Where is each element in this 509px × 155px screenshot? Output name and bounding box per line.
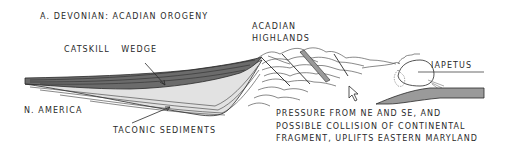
catskill-wedge-label: CATSKILL WEDGE xyxy=(64,45,157,55)
north-america-label: N. AMERICA xyxy=(24,106,82,116)
diagram-title: A. DEVONIAN: ACADIAN OROGENY xyxy=(40,12,208,22)
annotation-line-3: FRAGMENT, UPLIFTS EASTERN MARYLAND xyxy=(276,133,478,146)
acadian-highlands-label-line1: ACADIAN xyxy=(252,22,296,32)
oceanic-plate xyxy=(376,88,484,104)
annotation-line-1: PRESSURE FROM NE AND SE, AND xyxy=(276,108,478,121)
taconic-sediments-label: TACONIC SEDIMENTS xyxy=(113,126,216,136)
taconic-leader-arrow xyxy=(132,107,170,123)
mouse-cursor-icon xyxy=(349,86,358,101)
continental-fragment xyxy=(398,60,434,86)
acadian-highlands-label-line2: HIGHLANDS xyxy=(252,34,310,44)
annotation-line-2: POSSIBLE COLLISION OF CONTINENTAL xyxy=(276,121,478,134)
diagram-canvas: A. DEVONIAN: ACADIAN OROGENY CATSKILL WE… xyxy=(0,0,509,155)
annotation-note: PRESSURE FROM NE AND SE, AND POSSIBLE CO… xyxy=(276,108,478,146)
iapetus-label: IAPETUS xyxy=(431,61,472,71)
